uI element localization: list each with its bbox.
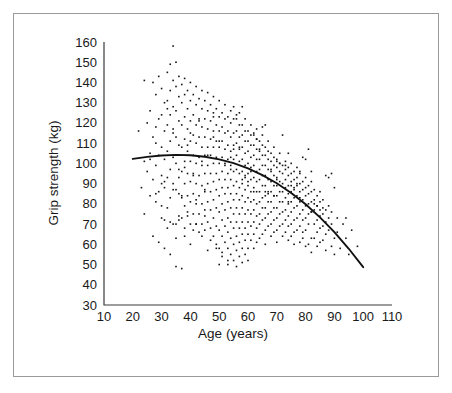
data-point	[262, 144, 264, 146]
data-point	[262, 134, 264, 136]
data-point	[239, 148, 241, 150]
data-point	[192, 173, 194, 175]
data-point	[227, 173, 229, 175]
data-point	[161, 183, 163, 185]
data-point	[262, 219, 264, 221]
data-point	[161, 175, 163, 177]
data-point	[233, 144, 235, 146]
data-point	[187, 128, 189, 130]
data-point	[290, 163, 292, 165]
data-point	[241, 106, 243, 108]
data-point	[270, 191, 272, 193]
data-point	[233, 199, 235, 201]
data-point	[282, 235, 284, 237]
data-point	[236, 181, 238, 183]
data-point	[241, 195, 243, 197]
data-point	[201, 108, 203, 110]
data-point	[302, 209, 304, 211]
data-point	[296, 167, 298, 169]
data-point	[253, 199, 255, 201]
data-point	[308, 148, 310, 150]
y-tick-label: 30	[83, 298, 97, 313]
data-point	[224, 193, 226, 195]
data-point	[256, 227, 258, 229]
data-point	[218, 146, 220, 148]
data-point	[190, 244, 192, 246]
data-point	[262, 207, 264, 209]
data-point	[213, 235, 215, 237]
data-point	[198, 120, 200, 122]
data-point	[241, 159, 243, 161]
data-point	[259, 201, 261, 203]
data-point	[305, 187, 307, 189]
data-point	[236, 169, 238, 171]
data-point	[279, 201, 281, 203]
y-tick-label: 110	[76, 136, 97, 151]
data-point	[190, 100, 192, 102]
data-point	[221, 171, 223, 173]
data-point	[302, 219, 304, 221]
data-point	[158, 118, 160, 120]
data-point	[210, 104, 212, 106]
data-point	[221, 112, 223, 114]
data-point	[313, 237, 315, 239]
data-point	[192, 229, 194, 231]
data-point	[288, 175, 290, 177]
data-point	[290, 173, 292, 175]
data-point	[256, 138, 258, 140]
data-point	[311, 252, 313, 254]
data-point	[230, 165, 232, 167]
data-point	[175, 136, 177, 138]
data-point	[210, 209, 212, 211]
data-point	[221, 157, 223, 159]
data-point	[233, 171, 235, 173]
data-point	[244, 227, 246, 229]
data-point	[256, 159, 258, 161]
data-point	[288, 152, 290, 154]
data-point	[164, 248, 166, 250]
data-point	[276, 207, 278, 209]
data-point	[264, 124, 266, 126]
data-point	[348, 254, 350, 256]
data-point	[296, 205, 298, 207]
data-point	[276, 217, 278, 219]
data-point	[227, 260, 229, 262]
data-point	[178, 120, 180, 122]
data-point	[244, 152, 246, 154]
data-point	[267, 225, 269, 227]
data-point	[236, 193, 238, 195]
data-point	[282, 183, 284, 185]
data-point	[184, 161, 186, 163]
data-point	[273, 207, 275, 209]
data-point	[319, 241, 321, 243]
data-point	[339, 248, 341, 250]
data-point	[241, 171, 243, 173]
data-point	[311, 191, 313, 193]
data-point	[270, 161, 272, 163]
data-point	[290, 181, 292, 183]
data-point	[224, 225, 226, 227]
data-point	[207, 165, 209, 167]
data-point	[239, 256, 241, 258]
data-point	[210, 154, 212, 156]
data-point	[158, 191, 160, 193]
data-point	[213, 217, 215, 219]
data-point	[187, 173, 189, 175]
y-tick-label: 160	[75, 35, 97, 50]
data-point	[259, 223, 261, 225]
data-point	[167, 100, 169, 102]
data-point	[236, 118, 238, 120]
data-point	[256, 148, 258, 150]
data-point	[236, 250, 238, 252]
data-point	[302, 157, 304, 159]
data-point	[198, 175, 200, 177]
data-point	[207, 221, 209, 223]
data-point	[334, 254, 336, 256]
data-point	[236, 235, 238, 237]
data-point	[221, 219, 223, 221]
data-point	[230, 179, 232, 181]
x-tick-label: 60	[241, 309, 255, 324]
data-point	[331, 211, 333, 213]
data-point	[253, 165, 255, 167]
data-point	[241, 207, 243, 209]
